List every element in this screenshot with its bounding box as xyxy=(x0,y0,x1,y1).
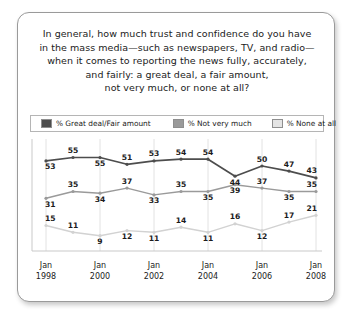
chart-legend: % Great deal/Fair amount % Not very much… xyxy=(30,115,324,132)
data-point xyxy=(260,164,263,167)
question-line: not very much, or none at all? xyxy=(26,81,328,95)
legend-swatch-icon xyxy=(272,119,283,128)
data-point xyxy=(206,158,209,161)
x-tick-month: Jan xyxy=(306,261,326,272)
data-label: 35 xyxy=(176,180,187,189)
data-label: 55 xyxy=(95,159,106,168)
data-point xyxy=(314,190,317,193)
question-line: in the mass media—such as newspapers, TV… xyxy=(26,41,328,55)
data-label: 37 xyxy=(257,177,268,186)
x-tick-label: Jan2000 xyxy=(90,261,110,282)
x-tick-year: 2002 xyxy=(144,272,164,283)
legend-item-not-very-much: % Not very much xyxy=(173,119,252,128)
data-point xyxy=(233,222,236,225)
question-line: In general, how much trust and confidenc… xyxy=(26,27,328,41)
data-point xyxy=(71,231,74,234)
data-point xyxy=(179,158,182,161)
data-label: 53 xyxy=(45,162,56,171)
x-tick-year: 2006 xyxy=(252,272,272,283)
legend-label: % None at all xyxy=(287,119,336,128)
x-tick-year: 1998 xyxy=(36,272,56,283)
legend-label: % Not very much xyxy=(188,119,252,128)
data-label: 14 xyxy=(176,216,187,225)
data-label: 35 xyxy=(68,180,79,189)
x-axis-labels: Jan1998Jan2000Jan2002Jan2004Jan2006Jan20… xyxy=(30,261,324,291)
chart-card: In general, how much trust and confidenc… xyxy=(17,12,335,302)
question-line: and fairly: a great deal, a fair amount, xyxy=(26,68,328,82)
data-label: 17 xyxy=(284,211,295,220)
data-label: 21 xyxy=(306,204,317,213)
line-chart-plot: 5355555153545444504743313534373335353937… xyxy=(30,139,324,259)
legend-label: % Great deal/Fair amount xyxy=(56,119,151,128)
data-label: 35 xyxy=(284,193,295,202)
data-point xyxy=(287,221,290,224)
chart-svg: 5355555153545444504743313534373335353937… xyxy=(30,139,324,259)
data-label: 11 xyxy=(203,234,214,243)
x-tick-month: Jan xyxy=(252,261,272,272)
data-point xyxy=(125,163,128,166)
data-label: 51 xyxy=(122,153,133,162)
data-label: 47 xyxy=(284,160,295,169)
data-point xyxy=(71,156,74,159)
data-point xyxy=(260,187,263,190)
data-point xyxy=(314,214,317,217)
legend-item-none-at-all: % None at all xyxy=(272,119,336,128)
data-label: 11 xyxy=(68,221,79,230)
data-label: 34 xyxy=(95,195,106,204)
x-tick-year: 2000 xyxy=(90,272,110,283)
x-tick-month: Jan xyxy=(198,261,218,272)
data-point xyxy=(125,187,128,190)
x-tick-label: Jan2002 xyxy=(144,261,164,282)
data-label: 50 xyxy=(257,155,268,164)
legend-swatch-icon xyxy=(173,119,184,128)
data-label: 35 xyxy=(306,180,317,189)
data-label: 54 xyxy=(176,148,187,157)
data-label: 35 xyxy=(203,193,214,202)
x-tick-month: Jan xyxy=(36,261,56,272)
data-label: 54 xyxy=(203,148,214,157)
x-tick-year: 2008 xyxy=(306,272,326,283)
data-point xyxy=(179,226,182,229)
data-label: 31 xyxy=(45,200,56,209)
data-point xyxy=(179,190,182,193)
legend-item-great-deal-fair-amount: % Great deal/Fair amount xyxy=(41,119,151,128)
data-label: 16 xyxy=(230,212,241,221)
data-label: 15 xyxy=(45,214,56,223)
question-text: In general, how much trust and confidenc… xyxy=(26,27,328,95)
x-tick-label: Jan1998 xyxy=(36,261,56,282)
data-label: 43 xyxy=(306,166,317,175)
data-label: 53 xyxy=(149,149,160,158)
x-tick-label: Jan2004 xyxy=(198,261,218,282)
x-tick-month: Jan xyxy=(144,261,164,272)
data-label: 37 xyxy=(122,177,133,186)
data-point xyxy=(44,224,47,227)
x-tick-label: Jan2006 xyxy=(252,261,272,282)
data-label: 12 xyxy=(257,232,268,241)
data-point xyxy=(152,159,155,162)
data-label: 11 xyxy=(149,234,160,243)
legend-swatch-icon xyxy=(41,119,52,128)
data-label: 39 xyxy=(230,186,241,195)
question-line: when it comes to reporting the news full… xyxy=(26,54,328,68)
x-tick-month: Jan xyxy=(90,261,110,272)
data-label: 9 xyxy=(97,237,102,246)
data-point xyxy=(71,190,74,193)
data-label: 12 xyxy=(122,232,133,241)
x-tick-year: 2004 xyxy=(198,272,218,283)
data-label: 55 xyxy=(68,146,79,155)
data-label: 33 xyxy=(149,196,160,205)
data-point xyxy=(287,170,290,173)
x-tick-label: Jan2008 xyxy=(306,261,326,282)
